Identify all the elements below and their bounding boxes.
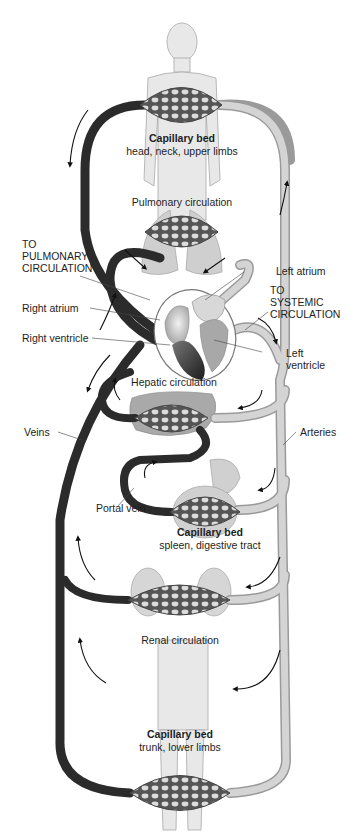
cap-head-subtitle: head, neck, upper limbs: [126, 145, 237, 157]
cap-trunk-title: Capillary bed: [147, 728, 213, 740]
label-to-systemic-2: SYSTEMIC: [270, 296, 324, 308]
label-hepatic-circulation: Hepatic circulation: [131, 376, 217, 388]
label-pulmonary-circulation: Pulmonary circulation: [132, 196, 232, 208]
label-to-pulmonary-3: CIRCULATION: [22, 262, 92, 274]
label-right-atrium: Right atrium: [22, 302, 79, 314]
label-to-pulmonary-1: TO: [22, 238, 36, 250]
circulation-diagram: [0, 0, 356, 836]
label-veins: Veins: [24, 426, 50, 438]
label-to-systemic-3: CIRCULATION: [270, 308, 340, 320]
cap-gut-subtitle: spleen, digestive tract: [159, 539, 261, 551]
label-to-pulmonary-2: PULMONARY: [22, 250, 88, 262]
cap-gut-title: Capillary bed: [177, 526, 243, 538]
capillary-bed-trunk: [130, 776, 230, 811]
label-arteries: Arteries: [300, 426, 336, 438]
label-left-ventricle-2: ventricle: [286, 359, 325, 371]
label-portal-vein: Portal vein: [96, 502, 146, 514]
label-left-ventricle-1: Left: [286, 347, 304, 359]
label-right-ventricle: Right ventricle: [22, 332, 89, 344]
label-to-systemic-1: TO: [270, 284, 284, 296]
label-left-atrium: Left atrium: [276, 265, 326, 277]
cap-trunk-subtitle: trunk, lower limbs: [139, 741, 221, 753]
cap-head-title: Capillary bed: [149, 132, 215, 144]
label-renal-circulation: Renal circulation: [141, 634, 219, 646]
